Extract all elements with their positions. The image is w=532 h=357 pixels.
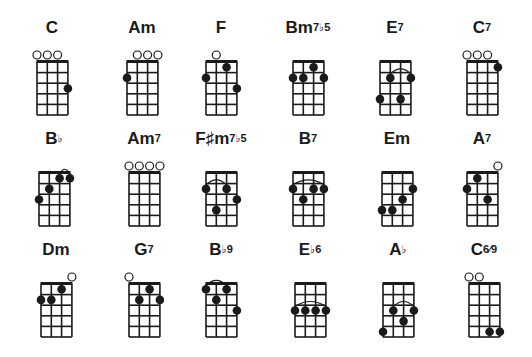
fretboard-diagram xyxy=(268,111,348,221)
open-string-marker xyxy=(484,51,492,59)
finger-dot xyxy=(494,63,503,72)
finger-dot xyxy=(309,63,318,72)
chord-8: F♯m7♭5 xyxy=(181,111,261,221)
finger-dot xyxy=(322,306,331,315)
finger-dot xyxy=(388,206,397,215)
fretboard-diagram xyxy=(104,222,184,332)
fretboard-diagram xyxy=(270,222,350,332)
fretboard-diagram xyxy=(442,0,522,110)
fretboard-diagram xyxy=(181,0,261,110)
fretboard-diagram xyxy=(442,111,522,221)
finger-dot xyxy=(379,327,388,336)
fretboard-diagram xyxy=(181,111,261,221)
finger-dot xyxy=(222,185,231,194)
finger-dot xyxy=(376,95,385,104)
finger-dot xyxy=(299,195,308,204)
finger-dot xyxy=(64,84,73,93)
finger-dot xyxy=(66,174,75,183)
finger-dot xyxy=(145,285,154,294)
open-string-marker xyxy=(54,51,62,59)
finger-dot xyxy=(47,296,56,305)
fretboard-diagram xyxy=(102,0,182,110)
chord-16: A♭ xyxy=(358,222,438,332)
finger-dot xyxy=(233,306,242,315)
finger-dot xyxy=(399,317,408,326)
finger-dot xyxy=(233,195,242,204)
finger-dot xyxy=(396,95,405,104)
finger-dot xyxy=(378,206,387,215)
finger-dot xyxy=(123,74,132,83)
chord-15: E♭6 xyxy=(270,222,350,332)
finger-dot xyxy=(156,296,165,305)
finger-dot xyxy=(301,306,310,315)
finger-dot xyxy=(45,185,54,194)
finger-dot xyxy=(311,306,320,315)
fretboard-diagram xyxy=(16,222,96,332)
finger-dot xyxy=(389,306,398,315)
open-string-marker xyxy=(154,51,162,59)
fretboard-diagram xyxy=(12,0,92,110)
chord-0: C xyxy=(12,0,92,110)
finger-dot xyxy=(289,185,298,194)
fretboard-diagram xyxy=(14,111,94,221)
open-string-marker xyxy=(125,273,133,281)
finger-dot xyxy=(135,296,144,305)
fretboard-diagram xyxy=(357,111,437,221)
finger-dot xyxy=(473,174,482,183)
open-string-marker xyxy=(463,51,471,59)
finger-dot xyxy=(233,84,242,93)
finger-dot xyxy=(320,185,329,194)
finger-dot xyxy=(222,63,231,72)
chord-7: Am7 xyxy=(104,111,184,221)
fretboard-diagram xyxy=(355,0,435,110)
finger-dot xyxy=(37,296,46,305)
open-string-marker xyxy=(146,162,154,170)
fretboard-diagram xyxy=(268,0,348,110)
fretboard-diagram xyxy=(358,222,438,332)
open-string-marker xyxy=(494,162,502,170)
finger-dot xyxy=(483,195,492,204)
finger-dot xyxy=(309,185,318,194)
open-string-marker xyxy=(156,162,164,170)
chord-10: Em xyxy=(357,111,437,221)
open-string-marker xyxy=(465,273,473,281)
chord-2: F xyxy=(181,0,261,110)
open-string-marker xyxy=(144,51,152,59)
finger-dot xyxy=(410,306,419,315)
open-string-marker xyxy=(43,51,51,59)
chord-5: C7 xyxy=(442,0,522,110)
open-string-marker xyxy=(475,273,483,281)
open-string-marker xyxy=(68,273,76,281)
finger-dot xyxy=(202,285,211,294)
finger-dot xyxy=(407,74,416,83)
finger-dot xyxy=(289,74,298,83)
finger-dot xyxy=(202,74,211,83)
finger-dot xyxy=(409,185,418,194)
chord-17: C6⁄9 xyxy=(444,222,524,332)
chord-4: E7 xyxy=(355,0,435,110)
chord-14: B♭9 xyxy=(181,222,261,332)
open-string-marker xyxy=(125,162,133,170)
chord-13: G7 xyxy=(104,222,184,332)
fretboard-diagram xyxy=(104,111,184,221)
finger-dot xyxy=(398,195,407,204)
finger-dot xyxy=(55,174,64,183)
finger-dot xyxy=(485,327,494,336)
chord-11: A7 xyxy=(442,111,522,221)
finger-dot xyxy=(320,74,329,83)
finger-dot xyxy=(222,285,231,294)
chord-9: B7 xyxy=(268,111,348,221)
fretboard-diagram xyxy=(181,222,261,332)
finger-dot xyxy=(299,74,308,83)
finger-dot xyxy=(212,296,221,305)
fretboard-diagram xyxy=(444,222,524,332)
open-string-marker xyxy=(135,162,143,170)
finger-dot xyxy=(496,327,505,336)
finger-dot xyxy=(463,185,472,194)
chord-12: Dm xyxy=(16,222,96,332)
open-string-marker xyxy=(473,51,481,59)
chord-3: Bm7♭5 xyxy=(268,0,348,110)
open-string-marker xyxy=(212,51,220,59)
finger-dot xyxy=(202,185,211,194)
finger-dot xyxy=(212,206,221,215)
